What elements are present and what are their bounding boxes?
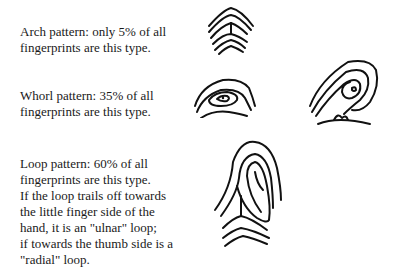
arch-line-2: fingerprints are this type. bbox=[20, 40, 166, 56]
whorl-line-2: fingerprints are this type. bbox=[20, 104, 154, 120]
loop-line-7: "radial" loop. bbox=[20, 252, 173, 268]
arch-description: Arch pattern: only 5% of all fingerprint… bbox=[20, 24, 166, 56]
loop-line-6: if towards the thumb side is a bbox=[20, 236, 173, 252]
loop-line-3: If the loop trails off towards bbox=[20, 188, 173, 204]
arch-line-1: Arch pattern: only 5% of all bbox=[20, 24, 166, 40]
loop-line-1: Loop pattern: 60% of all bbox=[20, 156, 173, 172]
loop-description: Loop pattern: 60% of all fingerprints ar… bbox=[20, 156, 173, 268]
loop-line-4: the little finger side of the bbox=[20, 204, 173, 220]
loop-line-5: hand, it is an "ulnar" loop; bbox=[20, 220, 173, 236]
whorl-fingerprint-icon-2 bbox=[308, 56, 388, 126]
whorl-fingerprint-icon bbox=[193, 68, 263, 118]
whorl-line-1: Whorl pattern: 35% of all bbox=[20, 88, 154, 104]
arch-fingerprint-icon bbox=[205, 4, 257, 56]
whorl-description: Whorl pattern: 35% of all fingerprints a… bbox=[20, 88, 154, 120]
loop-line-2: fingerprints are this type. bbox=[20, 172, 173, 188]
loop-fingerprint-icon bbox=[211, 138, 291, 248]
